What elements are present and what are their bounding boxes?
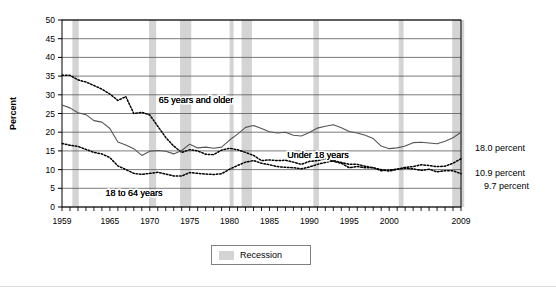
y-tick-label-45: 45 bbox=[46, 34, 56, 44]
end-label-0: 18.0 percent bbox=[475, 143, 526, 153]
series-inline-label-1: Under 18 years bbox=[287, 150, 349, 160]
x-tick-label-2000: 2000 bbox=[380, 216, 399, 226]
x-tick-label-1965: 1965 bbox=[100, 216, 119, 226]
series-inline-label-0: 65 years and older bbox=[159, 95, 234, 105]
x-tick-label-2009: 2009 bbox=[452, 216, 471, 226]
x-tick-label-1975: 1975 bbox=[180, 216, 199, 226]
x-tick-label-1990: 1990 bbox=[300, 216, 319, 226]
y-tick-label-0: 0 bbox=[50, 202, 55, 212]
y-tick-label-25: 25 bbox=[46, 109, 56, 119]
y-tick-label-30: 30 bbox=[46, 90, 56, 100]
x-tick-label-1995: 1995 bbox=[340, 216, 359, 226]
y-tick-label-10: 10 bbox=[46, 165, 56, 175]
y-tick-label-40: 40 bbox=[46, 52, 56, 62]
y-tick-label-50: 50 bbox=[46, 15, 56, 25]
chart-canvas: 05101520253035404550Percent1959196519701… bbox=[0, 0, 556, 287]
y-tick-label-5: 5 bbox=[50, 183, 55, 193]
x-tick-label-1985: 1985 bbox=[260, 216, 279, 226]
recession-legend-label: Recession bbox=[240, 251, 282, 260]
end-label-2: 9.7 percent bbox=[484, 181, 530, 191]
y-tick-label-15: 15 bbox=[46, 146, 56, 156]
x-tick-label-1959: 1959 bbox=[53, 216, 72, 226]
y-tick-label-35: 35 bbox=[46, 71, 56, 81]
recession-legend-swatch bbox=[219, 251, 234, 260]
x-tick-label-1970: 1970 bbox=[140, 216, 159, 226]
x-tick-label-1980: 1980 bbox=[220, 216, 239, 226]
end-label-1: 10.9 percent bbox=[475, 168, 526, 178]
y-axis-title: Percent bbox=[8, 97, 18, 130]
series-inline-label-2: 18 to 64 years bbox=[105, 188, 163, 198]
y-tick-label-20: 20 bbox=[46, 127, 56, 137]
poverty-rate-chart-figure: 05101520253035404550Percent1959196519701… bbox=[0, 0, 556, 287]
chart-legend: Recession bbox=[211, 245, 311, 265]
